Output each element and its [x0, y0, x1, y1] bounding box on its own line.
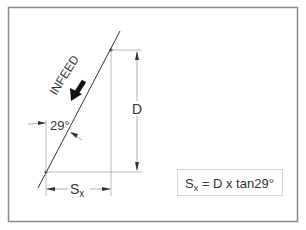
infeed-diagram: D Sx 29° INFEED Sx = D x tan29° [0, 0, 306, 230]
angle-label: 29° [50, 118, 70, 133]
depth-label: D [132, 101, 142, 117]
formula-text: Sx = D x tan29° [185, 176, 274, 193]
